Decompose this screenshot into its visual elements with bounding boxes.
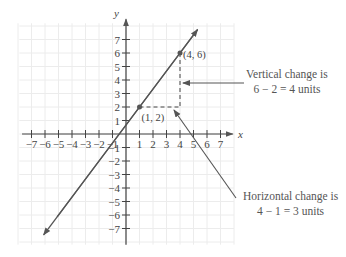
y-tick-label: −5 [108, 196, 120, 208]
x-tick-label: −3 [80, 138, 92, 150]
y-tick-label: 3 [115, 88, 121, 100]
y-tick-label: −7 [108, 223, 120, 235]
x-tick-label: −7 [26, 138, 38, 150]
vertical-change-annotation: Vertical change is 6 − 2 = 4 units [246, 67, 328, 97]
point-1-2 [137, 105, 142, 110]
y-tick-label: −6 [108, 209, 120, 221]
x-tick-label: 7 [218, 138, 224, 150]
x-axis-label: x [237, 128, 243, 140]
y-tick-label: 2 [115, 101, 121, 113]
vertical-change-line1: Vertical change is [246, 67, 328, 82]
x-tick-label: 3 [164, 138, 170, 150]
x-tick-label: −5 [53, 138, 65, 150]
y-tick-label: −2 [108, 155, 120, 167]
y-tick-label: −4 [108, 182, 120, 194]
horizontal-change-line2: 4 − 1 = 3 units [243, 204, 338, 219]
plot-area [44, 30, 244, 235]
x-tick-label: 5 [191, 138, 197, 150]
x-tick-label: −4 [66, 138, 78, 150]
point-label-1-2: (1, 2) [142, 112, 165, 124]
point-4-6 [178, 51, 183, 56]
x-tick-label: 1 [137, 138, 143, 150]
horizontal-change-arrow [174, 110, 236, 198]
horizontal-change-annotation: Horizontal change is 4 − 1 = 3 units [243, 189, 338, 219]
horizontal-change-line1: Horizontal change is [243, 189, 338, 204]
y-axis-label: y [113, 7, 119, 19]
line-upper [57, 30, 197, 217]
x-tick-label: 4 [177, 138, 183, 150]
vertical-change-line2: 6 − 2 = 4 units [246, 82, 328, 97]
x-tick-label: −6 [39, 138, 51, 150]
point-label-4-6: (4, 6) [183, 49, 206, 61]
y-tick-label: 7 [115, 34, 121, 46]
y-tick-label: −3 [108, 169, 120, 181]
y-tick-label: 5 [115, 61, 121, 73]
x-tick-label: −2 [93, 138, 105, 150]
y-tick-label: 1 [115, 115, 121, 127]
y-tick-label: 4 [115, 74, 121, 86]
y-tick-label: −1 [108, 142, 120, 154]
x-tick-label: 2 [150, 138, 156, 150]
y-tick-label: 6 [115, 47, 121, 59]
x-tick-label: 6 [204, 138, 210, 150]
